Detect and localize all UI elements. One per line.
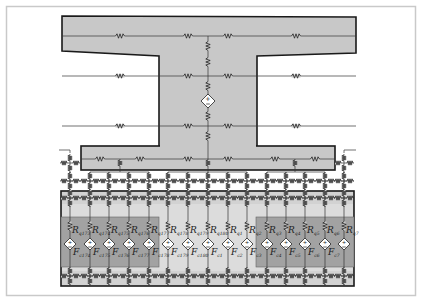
plus-sign: + [284, 239, 289, 245]
plus-sign: + [303, 239, 308, 245]
plus-sign: + [127, 239, 132, 245]
plus-sign: + [323, 239, 328, 245]
plus-sign: + [147, 239, 152, 245]
plus-sign: + [88, 239, 93, 245]
plus-sign: + [205, 95, 210, 102]
plus-sign: + [166, 239, 171, 245]
plus-sign: + [342, 239, 347, 245]
plus-sign: + [186, 239, 191, 245]
thermal-network-diagram: ++++++++++++++++ Rq173Rq174Rq175Rq176Rq1… [0, 0, 421, 302]
diagram-canvas: ++++++++++++++++ Rq173Rq174Rq175Rq176Rq1… [0, 0, 421, 302]
plus-sign: + [265, 239, 270, 245]
plus-sign: + [226, 239, 231, 245]
plus-sign: + [206, 239, 211, 245]
plus-sign: + [245, 239, 250, 245]
plus-sign: + [68, 239, 73, 245]
plus-sign: + [107, 239, 112, 245]
